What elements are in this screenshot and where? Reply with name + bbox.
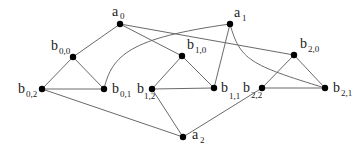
nodes-layer bbox=[39, 21, 328, 140]
node-label-b11: b bbox=[221, 80, 228, 95]
edge-a0-b00 bbox=[73, 24, 120, 57]
node-b10 bbox=[179, 53, 185, 59]
graph-diagram: a0a1a2b0,0b0,1b0,2b1,0b1,1b1,2b2,0b2,1b2… bbox=[0, 0, 362, 151]
edge-b02-a2 bbox=[42, 89, 183, 137]
node-label-b22: b bbox=[243, 80, 250, 95]
edge-b00-b01 bbox=[73, 57, 104, 89]
edge-b10-b12 bbox=[152, 56, 182, 89]
node-b21 bbox=[322, 85, 328, 91]
node-label-a2: a bbox=[192, 127, 199, 142]
node-subscript-b00: 0,0 bbox=[59, 46, 71, 56]
node-a1 bbox=[227, 21, 233, 27]
node-subscript-b11: 1,1 bbox=[229, 91, 240, 101]
node-label-a1: a bbox=[234, 5, 241, 20]
edge-b20-b22 bbox=[262, 55, 294, 88]
edge-a1-b11 bbox=[214, 24, 230, 88]
node-label-b02: b bbox=[18, 81, 25, 96]
node-b00 bbox=[70, 54, 76, 60]
node-label-a0: a bbox=[112, 4, 119, 19]
node-subscript-b21: 2,1 bbox=[341, 88, 352, 98]
node-subscript-a0: 0 bbox=[120, 11, 125, 21]
node-label-b00: b bbox=[51, 38, 58, 53]
node-label-b12: b bbox=[137, 81, 144, 96]
node-label-b10: b bbox=[187, 37, 194, 52]
node-b11 bbox=[211, 85, 217, 91]
node-a0 bbox=[117, 21, 123, 27]
edge-b12-a2 bbox=[152, 89, 183, 137]
edge-b12-b11 bbox=[152, 88, 214, 89]
node-subscript-b12: 1,2 bbox=[144, 91, 155, 101]
edge-b00-b02 bbox=[42, 57, 73, 89]
labels-layer: a0a1a2b0,0b0,1b0,2b1,0b1,1b1,2b2,0b2,1b2… bbox=[18, 4, 352, 145]
node-subscript-b22: 2,2 bbox=[251, 90, 262, 100]
node-subscript-b02: 0,2 bbox=[26, 89, 37, 99]
node-b02 bbox=[39, 86, 45, 92]
node-a2 bbox=[180, 134, 186, 140]
node-subscript-a1: 1 bbox=[242, 13, 247, 23]
node-label-b21: b bbox=[333, 80, 340, 95]
edge-a0-b20 bbox=[120, 24, 294, 55]
edge-a1-b21 bbox=[230, 24, 325, 88]
edges-layer bbox=[42, 24, 325, 137]
edge-b10-b11 bbox=[182, 56, 214, 88]
node-subscript-a2: 2 bbox=[200, 135, 205, 145]
node-label-b20: b bbox=[300, 36, 307, 51]
node-subscript-b20: 2,0 bbox=[308, 44, 320, 54]
node-subscript-b10: 1,0 bbox=[195, 45, 207, 55]
node-label-b01: b bbox=[112, 81, 119, 96]
node-b20 bbox=[291, 52, 297, 58]
node-subscript-b01: 0,1 bbox=[120, 89, 131, 99]
node-b01 bbox=[101, 86, 107, 92]
edge-b01-a1 bbox=[104, 24, 230, 89]
